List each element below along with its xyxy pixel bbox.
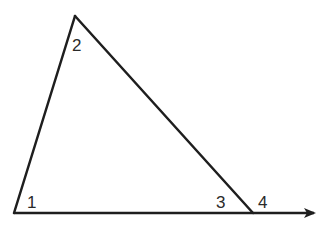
- angle-label-3: 3: [216, 193, 225, 212]
- angle-label-1: 1: [27, 193, 36, 212]
- angle-label-2: 2: [72, 36, 81, 55]
- side-right: [75, 16, 253, 213]
- angle-label-4: 4: [258, 193, 267, 212]
- side-left: [14, 16, 75, 213]
- triangle-diagram: 1 2 3 4: [0, 0, 329, 226]
